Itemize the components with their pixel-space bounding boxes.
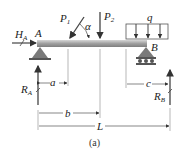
svg-text:c: c	[146, 77, 151, 89]
beam	[37, 40, 147, 47]
point-a-label: A	[34, 27, 42, 39]
beam-diagram: HA A B P1 α P2 q RA RB	[0, 0, 190, 159]
reaction-rb: RB	[153, 70, 172, 105]
svg-text:P2: P2	[103, 10, 115, 24]
point-b-label: B	[151, 41, 158, 53]
load-p2: P2	[100, 10, 115, 38]
dimension-b: b	[39, 107, 99, 119]
svg-text:a: a	[50, 76, 56, 88]
svg-text:q: q	[147, 11, 153, 23]
load-p1: P1 α	[59, 12, 91, 38]
horizontal-reaction-ha: HA	[12, 28, 36, 46]
svg-text:b: b	[65, 107, 71, 119]
distributed-load-q: q	[126, 11, 168, 39]
pin-support-a	[29, 47, 51, 60]
dimension-a: a	[40, 76, 67, 88]
svg-text:RA: RA	[20, 83, 33, 97]
svg-text:α: α	[85, 20, 91, 32]
svg-text:RB: RB	[153, 90, 166, 104]
svg-text:P1: P1	[59, 12, 70, 26]
figure-caption: (a)	[89, 137, 100, 149]
dimension-l: L	[39, 120, 169, 132]
svg-text:L: L	[96, 120, 103, 132]
reaction-ra: RA	[20, 66, 40, 105]
dimension-c: c	[127, 77, 168, 89]
svg-text:HA: HA	[14, 28, 28, 42]
